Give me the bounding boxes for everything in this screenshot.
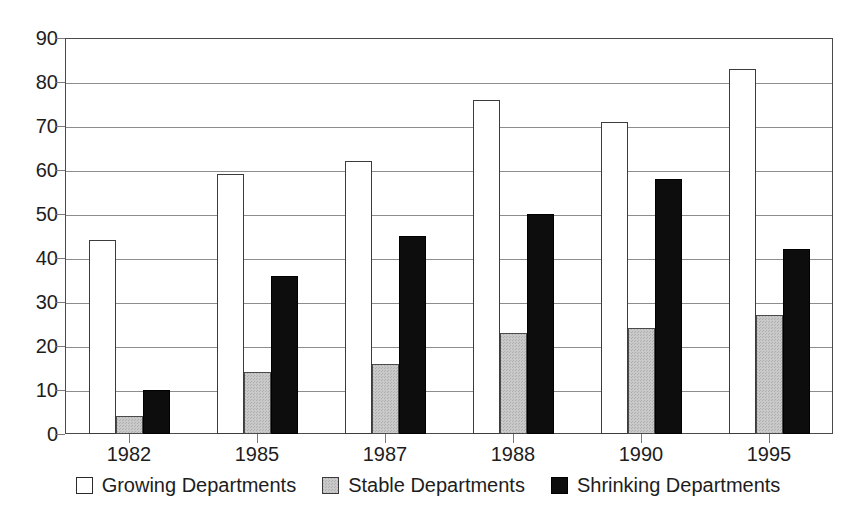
legend-item-growing[interactable]: Growing Departments — [76, 474, 297, 496]
bar-1985-stable — [244, 372, 271, 434]
legend-swatch-stable-icon — [322, 477, 339, 494]
bar-1988-growing — [473, 100, 500, 434]
y-tick-label: 90 — [2, 28, 58, 48]
x-tickmark — [641, 434, 642, 443]
y-tickmark — [55, 258, 65, 259]
legend-label: Stable Departments — [348, 474, 525, 496]
bar-1985-growing — [217, 174, 244, 434]
bars-layer — [65, 38, 833, 434]
bar-1995-stable — [756, 315, 783, 434]
x-tickmark — [257, 434, 258, 443]
bar-1982-stable — [116, 416, 143, 434]
bar-chart: 0102030405060708090 19821985198719881990… — [0, 0, 856, 523]
y-tick-label: 40 — [2, 248, 58, 268]
x-tick-label-1985: 1985 — [193, 443, 321, 465]
y-tickmark — [55, 346, 65, 347]
legend-label: Shrinking Departments — [577, 474, 780, 496]
y-tick-label: 30 — [2, 292, 58, 312]
y-tickmark — [55, 214, 65, 215]
legend-label: Growing Departments — [102, 474, 297, 496]
y-tickmark — [55, 302, 65, 303]
y-tick-label: 60 — [2, 160, 58, 180]
y-tick-label: 0 — [2, 424, 58, 444]
legend-swatch-growing-icon — [76, 477, 93, 494]
y-tickmark — [55, 38, 65, 39]
bar-1990-stable — [628, 328, 655, 434]
x-tick-label-1982: 1982 — [65, 443, 193, 465]
x-tickmark — [513, 434, 514, 443]
bar-1995-shrinking — [783, 249, 810, 434]
legend-item-stable[interactable]: Stable Departments — [322, 474, 525, 496]
x-tickmark — [129, 434, 130, 443]
bar-1987-shrinking — [399, 236, 426, 434]
legend-item-shrinking[interactable]: Shrinking Departments — [551, 474, 780, 496]
x-tickmark — [769, 434, 770, 443]
bar-1988-stable — [500, 333, 527, 434]
x-tick-label-1988: 1988 — [449, 443, 577, 465]
y-tickmark — [55, 82, 65, 83]
x-tick-label-1990: 1990 — [577, 443, 705, 465]
x-tick-label-1995: 1995 — [705, 443, 833, 465]
legend: Growing DepartmentsStable DepartmentsShr… — [0, 474, 856, 496]
y-tick-label: 70 — [2, 116, 58, 136]
y-tick-label: 10 — [2, 380, 58, 400]
y-axis: 0102030405060708090 — [0, 0, 58, 523]
y-tick-label: 80 — [2, 72, 58, 92]
y-tick-label: 20 — [2, 336, 58, 356]
x-axis: 198219851987198819901995 — [65, 443, 833, 471]
legend-swatch-shrinking-icon — [551, 477, 568, 494]
x-tickmark — [385, 434, 386, 443]
y-tick-label: 50 — [2, 204, 58, 224]
y-tickmark — [55, 126, 65, 127]
y-tickmark — [55, 170, 65, 171]
y-tickmark — [55, 434, 65, 435]
bar-1988-shrinking — [527, 214, 554, 434]
bar-1985-shrinking — [271, 276, 298, 434]
bar-1982-shrinking — [143, 390, 170, 434]
y-tickmark — [55, 390, 65, 391]
bar-1990-shrinking — [655, 179, 682, 434]
x-tick-label-1987: 1987 — [321, 443, 449, 465]
bar-1995-growing — [729, 69, 756, 434]
bar-1987-growing — [345, 161, 372, 434]
bar-1990-growing — [601, 122, 628, 434]
bar-1982-growing — [89, 240, 116, 434]
bar-1987-stable — [372, 364, 399, 434]
